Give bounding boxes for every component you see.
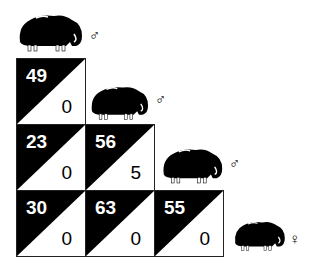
matrix-cell: 63 0 — [85, 190, 155, 257]
matrix-cell: 49 0 — [16, 58, 86, 125]
cell-top-value: 49 — [26, 65, 47, 87]
cell-bottom-value: 0 — [199, 228, 210, 250]
female-symbol-icon: ♀ — [289, 230, 300, 247]
cell-top-value: 55 — [164, 197, 185, 219]
male-symbol-icon: ♂ — [229, 154, 240, 171]
muskox-icon — [160, 146, 226, 186]
muskox-icon — [88, 84, 152, 122]
cell-top-value: 30 — [26, 197, 47, 219]
cell-top-value: 63 — [95, 197, 116, 219]
cell-bottom-value: 0 — [61, 162, 72, 184]
cell-bottom-value: 0 — [130, 228, 141, 250]
cell-bottom-value: 0 — [61, 96, 72, 118]
matrix-cell: 55 0 — [154, 190, 224, 257]
matrix-cell: 23 0 — [16, 124, 86, 191]
muskox-icon — [16, 12, 86, 54]
cell-bottom-value: 0 — [61, 228, 72, 250]
muskox-icon — [232, 218, 288, 254]
matrix-cell: 30 0 — [16, 190, 86, 257]
male-symbol-icon: ♂ — [89, 26, 100, 43]
male-symbol-icon: ♂ — [155, 90, 166, 107]
matrix-cell: 56 5 — [85, 124, 155, 191]
cell-top-value: 56 — [95, 131, 116, 153]
cell-top-value: 23 — [26, 131, 47, 153]
cell-bottom-value: 5 — [130, 162, 141, 184]
